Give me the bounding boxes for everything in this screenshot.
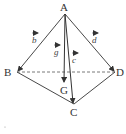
svg-text:g: g [54,47,59,57]
vertex-label-c: C [70,106,77,118]
vertex-label-a: A [60,1,68,13]
vector-b-arrow [18,14,65,71]
edge-cd [74,72,115,104]
tetrahedron-diagram: A B D C G b d g c [0,0,126,134]
vertex-label-b: B [4,66,11,78]
vector-label-c: c [72,53,78,65]
vector-label-g: g [54,45,60,57]
vertex-label-g: G [60,84,68,96]
svg-text:b: b [32,35,37,45]
vector-label-b: b [32,33,38,45]
stray-dot [4,126,5,127]
svg-text:d: d [92,35,97,45]
svg-text:c: c [72,55,76,65]
vector-label-d: d [92,33,98,45]
vertex-label-d: D [116,66,124,78]
